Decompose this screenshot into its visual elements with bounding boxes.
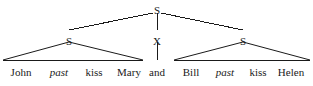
node-left-s: S bbox=[66, 36, 72, 47]
terminal-and: and bbox=[149, 66, 165, 78]
terminal-john: John bbox=[11, 66, 32, 78]
terminal-past-right: past bbox=[216, 66, 234, 78]
node-coordinator-x: X bbox=[153, 36, 161, 47]
terminal-mary: Mary bbox=[117, 66, 141, 78]
terminal-past-left: past bbox=[50, 66, 68, 78]
edge-root-to-right-s bbox=[161, 13, 243, 30]
terminal-helen: Helen bbox=[278, 66, 304, 78]
syntax-tree-figure: S S X S John past kiss Mary and Bill pas… bbox=[0, 0, 313, 86]
left-triangle-left-side bbox=[3, 42, 69, 60]
right-triangle-left-side bbox=[174, 42, 243, 60]
terminal-kiss-left: kiss bbox=[85, 66, 102, 78]
terminal-kiss-right: kiss bbox=[249, 66, 266, 78]
right-triangle-right-side bbox=[243, 42, 310, 60]
terminal-bill: Bill bbox=[183, 66, 200, 78]
left-triangle-right-side bbox=[69, 42, 143, 60]
node-root-s: S bbox=[154, 5, 160, 16]
node-right-s: S bbox=[240, 36, 246, 47]
edge-root-to-left-s bbox=[69, 13, 153, 30]
